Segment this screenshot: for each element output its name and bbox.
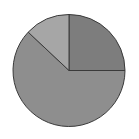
pie-slice-1 [69,15,125,71]
pie-chart [0,0,139,139]
